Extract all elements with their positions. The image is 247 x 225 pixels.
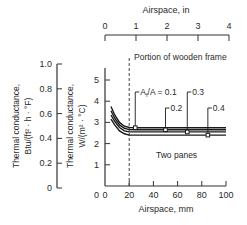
frame-label: Portion of wooden frame <box>134 52 227 62</box>
top-axis-title: Airspace, in <box>142 5 189 15</box>
y2-tick-label: 0.6 <box>39 109 52 119</box>
series-label: 0.3 <box>192 87 204 97</box>
series-label: 0.4 <box>213 103 225 113</box>
x-tick-label: 80 <box>197 190 207 200</box>
x-tick-label: 0 <box>102 190 107 200</box>
series-label: Af/A = 0.1 <box>140 87 177 98</box>
x2-tick-label: 4 <box>226 21 231 31</box>
x2-tick-label: 2 <box>164 21 169 31</box>
top-axis-inches: Airspace, in 01234 <box>102 5 231 41</box>
series-labels: Af/A = 0.10.20.30.4 <box>135 87 225 133</box>
y-axis-title-line2: W/(m² · °C) <box>77 104 87 147</box>
x-tick-label: 100 <box>218 190 233 200</box>
series-line <box>111 107 226 128</box>
y-axis-title-line1: Thermal conductance, <box>65 84 75 168</box>
x-axis-title: Airspace, mm <box>138 204 193 214</box>
series-curves <box>111 107 226 137</box>
y-tick-label: 5 <box>94 75 99 85</box>
left-axis-btu: 00.20.40.60.81.0 Thermal conductance, Bt… <box>11 59 62 193</box>
x-tick-label: 40 <box>148 190 158 200</box>
thermal-conductance-chart: Airspace, in 01234 Portion of wooden fra… <box>0 0 247 225</box>
y2-tick-label: 0.8 <box>39 84 52 94</box>
y2-axis-title-line1: Thermal conductance, <box>11 84 21 168</box>
y2-axis-title-line2: Btu/(ft² · h · °F) <box>23 97 33 154</box>
y-tick-label: 3 <box>94 117 99 127</box>
y-tick-label: 0 <box>94 190 99 200</box>
x-tick-label: 60 <box>173 190 183 200</box>
series-marker <box>164 128 168 132</box>
y2-tick-label: 0.2 <box>39 158 52 168</box>
x2-tick-label: 1 <box>133 21 138 31</box>
x2-tick-label: 0 <box>102 21 107 31</box>
series-marker <box>133 126 137 130</box>
y2-tick-label: 0.4 <box>39 133 52 143</box>
series-marker <box>185 130 189 134</box>
y-tick-label: 4 <box>94 96 99 106</box>
x2-tick-label: 3 <box>195 21 200 31</box>
y-tick-label: 2 <box>94 139 99 149</box>
y2-tick-label: 0 <box>47 183 52 193</box>
series-marker <box>206 133 210 137</box>
series-label: 0.2 <box>171 103 183 113</box>
y-tick-label: 1 <box>94 160 99 170</box>
x-tick-label: 20 <box>124 190 134 200</box>
region-label: Two panes <box>156 150 197 160</box>
y2-tick-label: 1.0 <box>39 59 52 69</box>
